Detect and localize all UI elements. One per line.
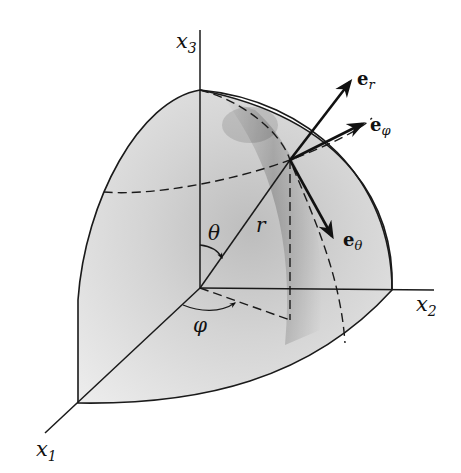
- spherical-coordinates-diagram: x3 x2 x1 er eφ eθ r θ φ: [0, 0, 461, 473]
- x2-axis-label: x2: [416, 292, 437, 319]
- phi-label: φ: [193, 313, 207, 337]
- e-phi-label: eφ: [370, 114, 391, 138]
- radius-label: r: [256, 213, 267, 237]
- x3-axis-label: x3: [176, 29, 197, 56]
- e-r-label: er: [357, 68, 375, 92]
- theta-label: θ: [208, 221, 220, 245]
- x1-axis-label: x1: [36, 437, 57, 464]
